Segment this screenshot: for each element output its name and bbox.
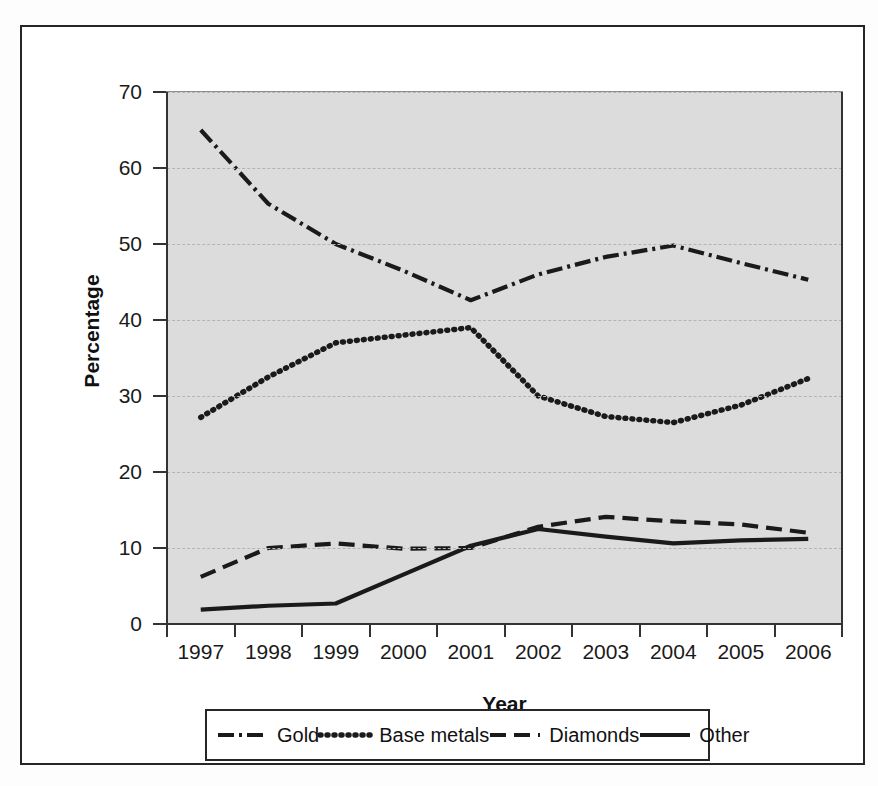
x-tick-mark-4	[436, 624, 438, 637]
series-line-diamonds	[201, 517, 809, 577]
legend-swatch-solid-icon	[639, 728, 691, 742]
y-tick-mark-60	[153, 167, 167, 169]
legend-item-diamonds[interactable]: Diamonds	[489, 724, 639, 747]
x-tick-mark-0	[166, 624, 168, 637]
y-tick-label-30: 30	[100, 385, 142, 406]
y-tick-mark-20	[153, 471, 167, 473]
legend-label: Diamonds	[549, 724, 639, 747]
gridline-40	[167, 320, 842, 321]
chart-legend: GoldBase metalsDiamondsOther	[205, 709, 710, 761]
x-tick-label-2006: 2006	[775, 641, 843, 662]
x-tick-mark-5	[504, 624, 506, 637]
chart-figure: Percentage 010203040506070 1997199819992…	[0, 0, 878, 786]
plot-border-left	[166, 92, 168, 625]
x-tick-mark-6	[571, 624, 573, 637]
legend-item-gold[interactable]: Gold	[217, 724, 319, 747]
x-tick-label-2004: 2004	[640, 641, 708, 662]
legend-label: Gold	[277, 724, 319, 747]
x-tick-mark-8	[706, 624, 708, 637]
y-tick-mark-70	[153, 91, 167, 93]
y-tick-label-10: 10	[100, 537, 142, 558]
x-tick-mark-3	[369, 624, 371, 637]
x-tick-mark-10	[841, 624, 843, 637]
x-tick-label-1997: 1997	[167, 641, 235, 662]
plot-border-right	[841, 92, 843, 625]
y-tick-mark-0	[153, 623, 167, 625]
data-series-layer	[167, 92, 842, 624]
series-line-gold	[201, 130, 809, 300]
x-tick-label-2000: 2000	[370, 641, 438, 662]
y-tick-mark-50	[153, 243, 167, 245]
gridline-70	[167, 92, 842, 93]
legend-label: Base metals	[379, 724, 489, 747]
plot-border-top	[166, 91, 843, 92]
gridline-30	[167, 396, 842, 397]
gridline-50	[167, 244, 842, 245]
y-tick-label-20: 20	[100, 461, 142, 482]
y-tick-mark-40	[153, 319, 167, 321]
x-tick-mark-7	[639, 624, 641, 637]
y-tick-label-50: 50	[100, 233, 142, 254]
gridline-10	[167, 548, 842, 549]
legend-item-base-metals[interactable]: Base metals	[319, 724, 489, 747]
gridline-20	[167, 472, 842, 473]
y-tick-label-40: 40	[100, 309, 142, 330]
x-tick-label-1998: 1998	[235, 641, 303, 662]
x-tick-label-1999: 1999	[302, 641, 370, 662]
x-tick-label-2002: 2002	[505, 641, 573, 662]
legend-label: Other	[699, 724, 749, 747]
y-tick-label-70: 70	[100, 81, 142, 102]
y-tick-label-60: 60	[100, 157, 142, 178]
x-tick-label-2001: 2001	[437, 641, 505, 662]
legend-swatch-dash-dot-icon	[217, 728, 269, 742]
plot-area	[167, 92, 842, 624]
legend-item-other[interactable]: Other	[639, 724, 749, 747]
legend-swatch-dotted-icon	[319, 728, 371, 742]
gridline-60	[167, 168, 842, 169]
legend-swatch-dashed-icon	[489, 728, 541, 742]
x-tick-mark-9	[774, 624, 776, 637]
y-tick-mark-10	[153, 547, 167, 549]
series-line-other	[201, 529, 809, 610]
x-tick-label-2005: 2005	[707, 641, 775, 662]
x-tick-mark-1	[234, 624, 236, 637]
y-tick-mark-30	[153, 395, 167, 397]
x-tick-mark-2	[301, 624, 303, 637]
y-tick-label-0: 0	[100, 613, 142, 634]
figure-frame: Percentage 010203040506070 1997199819992…	[20, 25, 865, 765]
series-line-base-metals	[201, 328, 809, 423]
x-tick-label-2003: 2003	[572, 641, 640, 662]
